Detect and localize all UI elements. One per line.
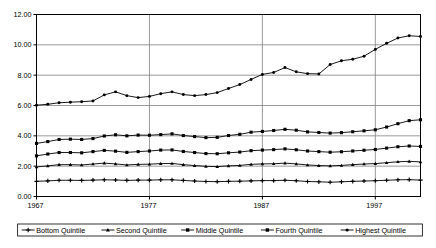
data-point-1977 [148, 149, 151, 152]
y-tick-label-4.00: 4.00 [18, 131, 32, 140]
y-tick-label-6.00: 6.00 [18, 101, 32, 110]
chart-background [0, 0, 436, 248]
x-tick-label-1967: 1967 [28, 201, 44, 210]
data-point-1986 [250, 78, 253, 81]
data-point-1995 [351, 58, 354, 61]
data-point-1999 [396, 37, 399, 40]
data-point-1992 [317, 72, 320, 75]
y-tick-label-10.00: 10.00 [14, 40, 32, 49]
data-point-1976 [137, 96, 140, 99]
data-point-1969 [58, 138, 61, 141]
data-point-1988 [272, 129, 275, 132]
data-point-1996 [363, 55, 366, 58]
data-point-1977 [148, 95, 151, 98]
data-point-1982 [204, 136, 207, 139]
data-point-1981 [193, 135, 196, 138]
legend-label: Fourth Quintile [275, 226, 322, 235]
data-point-1999 [396, 122, 399, 125]
data-point-2001 [419, 145, 422, 148]
data-point-1996 [362, 129, 365, 132]
data-point-1988 [272, 71, 275, 74]
data-point-1989 [283, 66, 286, 69]
data-point-1994 [340, 150, 343, 153]
data-point-1993 [329, 151, 332, 154]
chart-legend: Bottom QuintileSecond QuintileMiddle Qui… [18, 224, 423, 236]
data-point-1981 [193, 94, 196, 97]
data-point-1974 [114, 90, 117, 93]
data-point-1975 [125, 94, 128, 97]
data-point-1985 [238, 151, 241, 154]
data-point-1987 [261, 130, 264, 133]
legend-label: Second Quintile [116, 226, 167, 235]
data-point-1973 [103, 149, 106, 152]
data-point-1991 [306, 149, 309, 152]
data-point-1986 [250, 131, 253, 134]
data-point-1983 [216, 136, 219, 139]
data-point-1967 [35, 154, 38, 157]
data-point-1978 [159, 92, 162, 95]
data-point-1991 [306, 72, 309, 75]
data-point-1968 [46, 152, 49, 155]
data-point-1980 [182, 150, 185, 153]
data-point-1989 [283, 128, 286, 131]
data-point-1983 [216, 152, 219, 155]
data-point-1997 [374, 128, 377, 131]
legend-marker-icon [346, 228, 349, 231]
data-point-1998 [385, 147, 388, 150]
data-point-2000 [408, 34, 411, 37]
data-point-1998 [385, 42, 388, 45]
data-point-1993 [329, 63, 332, 66]
data-point-1973 [103, 93, 106, 96]
data-point-1996 [362, 149, 365, 152]
data-point-1984 [227, 151, 230, 154]
data-point-1980 [182, 93, 185, 96]
data-point-2000 [408, 144, 411, 147]
data-point-1969 [58, 151, 61, 154]
data-point-1995 [351, 130, 354, 133]
data-point-2001 [419, 118, 422, 121]
data-point-1985 [238, 83, 241, 86]
data-point-1991 [306, 130, 309, 133]
data-point-1979 [170, 148, 173, 151]
data-point-1982 [204, 152, 207, 155]
data-point-2000 [408, 119, 411, 122]
data-point-1980 [182, 134, 185, 137]
data-point-1982 [204, 93, 207, 96]
data-point-1974 [114, 150, 117, 153]
data-point-1978 [159, 133, 162, 136]
data-point-2001 [419, 35, 422, 38]
legend-label: Middle Quintile [196, 226, 244, 235]
data-point-1994 [340, 59, 343, 62]
data-point-1987 [261, 73, 264, 76]
quintile-line-chart: 0.002.004.006.008.0010.0012.00 196719771… [0, 0, 436, 248]
data-point-1977 [148, 134, 151, 137]
data-point-1970 [69, 101, 72, 104]
data-point-1971 [80, 151, 83, 154]
data-point-1967 [35, 142, 38, 145]
data-point-1989 [283, 147, 286, 150]
data-point-1967 [35, 104, 38, 107]
chart-container: 0.002.004.006.008.0010.0012.00 196719771… [0, 0, 436, 248]
data-point-1993 [329, 132, 332, 135]
data-point-1992 [317, 150, 320, 153]
data-point-1995 [351, 149, 354, 152]
x-tick-label-1987: 1987 [253, 201, 269, 210]
data-point-1978 [159, 149, 162, 152]
data-point-1970 [69, 151, 72, 154]
y-tick-label-2.00: 2.00 [18, 162, 32, 171]
data-point-1985 [238, 133, 241, 136]
data-point-1987 [261, 149, 264, 152]
data-point-1990 [295, 70, 298, 73]
data-point-1992 [317, 131, 320, 134]
data-point-1997 [374, 148, 377, 151]
data-point-1972 [91, 99, 94, 102]
data-point-1984 [227, 134, 230, 137]
legend-label: Highest Quintile [355, 226, 406, 235]
data-point-1994 [340, 131, 343, 134]
data-point-1976 [137, 134, 140, 137]
legend-label: Bottom Quintile [36, 226, 85, 235]
y-tick-label-0.00: 0.00 [18, 192, 32, 201]
data-point-1971 [80, 138, 83, 141]
data-point-1988 [272, 148, 275, 151]
data-point-1990 [295, 148, 298, 151]
